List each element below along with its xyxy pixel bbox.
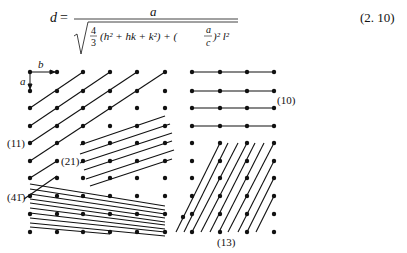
lattice-point [272, 70, 276, 74]
lattice-point [163, 176, 167, 180]
lattice-point [163, 89, 167, 93]
lattice-point [218, 124, 222, 128]
lattice-point [190, 176, 194, 180]
eq-term2: )² l² [212, 30, 230, 43]
lattice-point [81, 212, 85, 216]
lattice-point [55, 106, 59, 110]
lattice-point [135, 159, 139, 163]
lattice-point [135, 176, 139, 180]
lattice-point [190, 124, 194, 128]
basis-vectors [28, 70, 55, 89]
lattice-point [218, 141, 222, 145]
lattice-point [28, 176, 32, 180]
lattice-point [135, 106, 139, 110]
lattice-point [218, 89, 222, 93]
lattice-point [28, 212, 32, 216]
eq-frac-num: 4 [91, 25, 96, 36]
lattice-point [163, 141, 167, 145]
lattice-point [28, 194, 32, 198]
lattice-point [135, 141, 139, 145]
lattice-point [135, 89, 139, 93]
lattice-point [108, 124, 112, 128]
planes-21 [80, 116, 174, 186]
eq-lhs: d [50, 10, 58, 25]
lattice-point [55, 230, 59, 234]
eq-numerator: a [150, 4, 157, 19]
lattice-point [190, 70, 194, 74]
planes-10 [192, 72, 274, 126]
lattice-point [245, 141, 249, 145]
lattice-point [28, 106, 32, 110]
lattice-point [218, 176, 222, 180]
lattice-point [163, 212, 167, 216]
lattice-point [272, 212, 276, 216]
lattice-point [108, 176, 112, 180]
eq-ratio-den: c [206, 37, 211, 48]
lattice-point [135, 124, 139, 128]
lattice-point [245, 176, 249, 180]
lattice-point [108, 141, 112, 145]
lattice-point [190, 141, 194, 145]
lattice-point [245, 230, 249, 234]
lattice-plane-figure: d = a 4 3 (h² + hk + k²) + ( a c )² l² (… [0, 0, 407, 253]
lattice-point [28, 141, 32, 145]
planes-11 [24, 72, 165, 199]
lattice-point [81, 159, 85, 163]
lattice-point [245, 70, 249, 74]
lattice-point [81, 141, 85, 145]
eq-equals: = [60, 10, 68, 25]
lattice-point [190, 230, 194, 234]
lattice-point [272, 194, 276, 198]
lattice-point [272, 124, 276, 128]
lattice-point [272, 89, 276, 93]
lattice-point [135, 70, 139, 74]
lattice-point [190, 159, 194, 163]
lattice-point [135, 212, 139, 216]
lattice-point [245, 194, 249, 198]
lattice-point [55, 159, 59, 163]
planes-41bar [30, 184, 165, 236]
axis-label-b: b [38, 58, 44, 70]
lattice-point [55, 194, 59, 198]
lattice-point [28, 70, 32, 74]
b-arrowhead-icon [50, 70, 55, 74]
lattice-point [55, 89, 59, 93]
lattice-point [190, 212, 194, 216]
lattice-point [218, 70, 222, 74]
equation-number: (2. 10) [360, 10, 395, 25]
lattice-point [81, 124, 85, 128]
lattice-point [28, 124, 32, 128]
lattice-points [28, 70, 276, 234]
lattice-point [135, 194, 139, 198]
label-41bar: (41̄) [7, 191, 26, 204]
lattice-point [218, 230, 222, 234]
lattice-point [108, 230, 112, 234]
a-arrowhead-icon [28, 84, 32, 89]
label-13: (13) [217, 236, 236, 249]
lattice-point [55, 70, 59, 74]
label-10: (10) [277, 94, 296, 107]
lattice-point [108, 159, 112, 163]
eq-term1: (h² + hk + k²) + ( [100, 30, 178, 43]
lattice-point [28, 230, 32, 234]
lattice-point [55, 124, 59, 128]
axis-label-a: a [20, 75, 26, 87]
lattice-point [108, 70, 112, 74]
lattice-point [163, 230, 167, 234]
lattice-point [108, 106, 112, 110]
lattice-point [55, 141, 59, 145]
lattice-point [163, 70, 167, 74]
lattice-point [245, 89, 249, 93]
eq-ratio-num: a [206, 24, 211, 35]
lattice-point [163, 124, 167, 128]
lattice-point [28, 159, 32, 163]
lattice-point [108, 89, 112, 93]
lattice-point [55, 176, 59, 180]
eq-frac-den: 3 [91, 37, 96, 48]
lattice-point [245, 159, 249, 163]
lattice-point [245, 124, 249, 128]
lattice-point [272, 106, 276, 110]
lattice-point [272, 159, 276, 163]
equation: d = a 4 3 (h² + hk + k²) + ( a c )² l² (… [50, 4, 395, 54]
lattice-point [81, 70, 85, 74]
